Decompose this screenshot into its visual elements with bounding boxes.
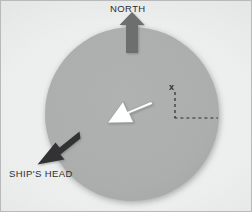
point-marker-label: x xyxy=(169,83,174,92)
north-label: NORTH xyxy=(110,4,146,14)
ships-head-label: SHIP'S HEAD xyxy=(9,169,73,179)
figure-canvas xyxy=(1,1,252,212)
figure-container: NORTH SHIP'S HEAD x xyxy=(0,0,252,212)
